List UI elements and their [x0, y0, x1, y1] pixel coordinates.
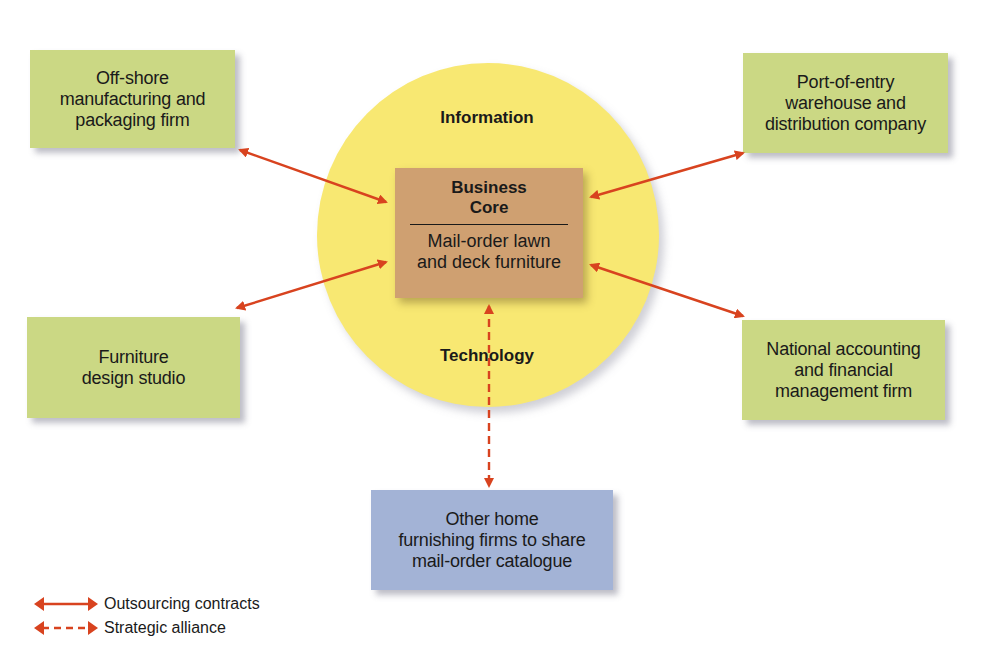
legend-outsourcing: Outsourcing contracts — [34, 594, 260, 614]
solid-double-arrow-icon — [34, 596, 98, 612]
legend-label: Outsourcing contracts — [104, 595, 260, 613]
outsourcing-arrow-design — [237, 262, 386, 308]
dashed-double-arrow-icon — [34, 620, 98, 636]
legend-strategic-alliance: Strategic alliance — [34, 618, 226, 638]
outsourcing-arrow-offshore — [240, 150, 386, 202]
outsourcing-arrow-port — [591, 153, 743, 197]
outsourcing-arrow-accounting — [591, 265, 743, 316]
connector-arrows — [0, 0, 990, 650]
legend-label: Strategic alliance — [104, 619, 226, 637]
